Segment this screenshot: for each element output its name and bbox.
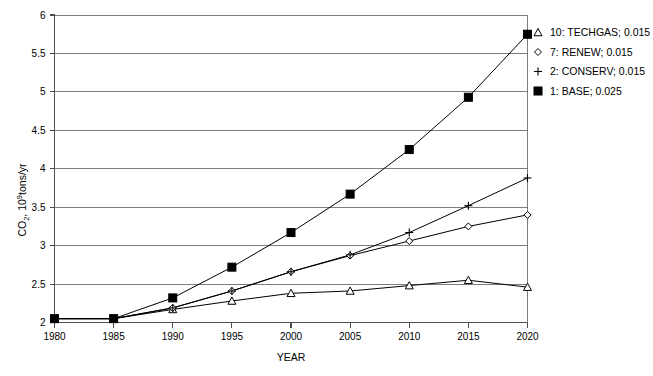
legend-label-3: 1: BASE; 0.025 [550, 85, 622, 97]
y-tick-label-4: 4 [40, 163, 46, 174]
data-point-renew-2020 [524, 211, 531, 218]
y-axis-title-units: tons/yr [16, 163, 28, 195]
data-point-base-2010 [405, 146, 413, 154]
series-markers-base [51, 30, 532, 322]
gridlines [55, 15, 528, 284]
y-axis-title-comma: , 10 [16, 199, 28, 217]
legend-label-1: 7: RENEW; 0.015 [550, 46, 633, 58]
legend-marker-diamond [535, 49, 542, 56]
y-tick-label-5.5: 5.5 [32, 48, 46, 59]
x-tick-label-2015: 2015 [457, 331, 480, 342]
x-tick-label-2005: 2005 [339, 331, 362, 342]
series-markers-renew [51, 211, 531, 322]
series-line-techgas [55, 280, 528, 318]
co2-emissions-line-chart: 22.533.544.555.56 1980198519901995200020… [0, 0, 653, 376]
x-tick-label-1980: 1980 [43, 331, 66, 342]
legend-marker-triangle [534, 29, 542, 36]
y-tick-label-4.5: 4.5 [32, 125, 46, 136]
x-tick-label-2000: 2000 [280, 331, 303, 342]
y-tick-label-6: 6 [40, 10, 46, 21]
data-point-renew-2010 [406, 238, 413, 245]
y-axis-title: CO2, 109tons/yr [15, 163, 31, 237]
x-axis-title: YEAR [277, 351, 306, 363]
y-axis-ticks: 22.533.544.555.56 [32, 10, 55, 329]
series-markers-conserv [51, 174, 532, 323]
data-point-base-1990 [169, 294, 177, 302]
data-point-base-2015 [464, 93, 472, 101]
data-point-base-2020 [524, 30, 532, 38]
y-tick-label-3.5: 3.5 [32, 202, 46, 213]
x-tick-label-2010: 2010 [398, 331, 421, 342]
series-line-base [55, 34, 528, 318]
data-point-techgas-2015 [464, 276, 472, 283]
chart-container: 22.533.544.555.56 1980198519901995200020… [0, 0, 653, 376]
x-tick-label-1995: 1995 [221, 331, 244, 342]
data-point-base-1980 [51, 315, 59, 323]
y-tick-label-2.5: 2.5 [32, 279, 46, 290]
x-tick-label-1985: 1985 [102, 331, 125, 342]
y-tick-label-3: 3 [40, 240, 46, 251]
legend-label-2: 2: CONSERV; 0.015 [550, 65, 645, 77]
data-point-base-1995 [228, 263, 236, 271]
data-point-base-1985 [110, 315, 118, 323]
legend-item-1[interactable]: 7: RENEW; 0.015 [535, 46, 633, 58]
x-axis-ticks: 198019851990199520002005201020152020 [43, 323, 539, 342]
y-tick-label-5: 5 [40, 86, 46, 97]
y-axis-title-co: CO [16, 221, 28, 237]
legend-item-3[interactable]: 1: BASE; 0.025 [534, 85, 622, 97]
legend-item-0[interactable]: 10: TECHGAS; 0.015 [534, 26, 650, 38]
legend-label-0: 10: TECHGAS; 0.015 [550, 26, 650, 38]
series-layer [51, 30, 532, 322]
svg-text:CO2, 109tons/yr: CO2, 109tons/yr [15, 163, 31, 237]
x-axis-title-label: YEAR [277, 351, 306, 363]
legend: 10: TECHGAS; 0.0157: RENEW; 0.0152: CONS… [534, 26, 650, 97]
data-point-base-2005 [346, 190, 354, 198]
y-tick-label-2: 2 [40, 317, 46, 328]
series-line-conserv [55, 178, 528, 319]
data-point-base-2000 [287, 229, 295, 237]
legend-item-2[interactable]: 2: CONSERV; 0.015 [534, 65, 645, 77]
x-tick-label-2020: 2020 [516, 331, 539, 342]
legend-marker-square-filled [534, 87, 542, 95]
data-point-renew-2015 [465, 223, 472, 230]
x-tick-label-1990: 1990 [162, 331, 185, 342]
